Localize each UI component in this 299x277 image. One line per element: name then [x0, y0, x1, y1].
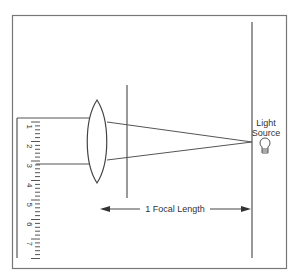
focal-length-label: 1 Focal Length [145, 204, 205, 214]
arrow-right-icon [241, 206, 251, 212]
light-cone-top [107, 122, 252, 142]
ruler-number: 1 [25, 125, 34, 130]
focal-length-diagram: 1234567 Light Source 1 Focal Length [0, 0, 299, 277]
arrow-left-icon [100, 206, 110, 212]
ruler-number: 3 [25, 164, 34, 169]
light-source-label-line1: Light [256, 118, 276, 128]
light-source-label-line2: Source [252, 128, 281, 138]
ruler-numbers: 1234567 [25, 125, 34, 247]
outer-frame [13, 16, 287, 269]
ruler-number: 2 [25, 144, 34, 149]
ruler [31, 122, 40, 259]
ruler-number: 6 [25, 222, 34, 227]
ruler-number: 4 [25, 183, 34, 188]
convex-lens [87, 100, 107, 183]
light-cone-bottom [107, 142, 252, 160]
ruler-number: 5 [25, 203, 34, 208]
ruler-number: 7 [25, 242, 34, 247]
light-bulb-icon [260, 138, 270, 153]
